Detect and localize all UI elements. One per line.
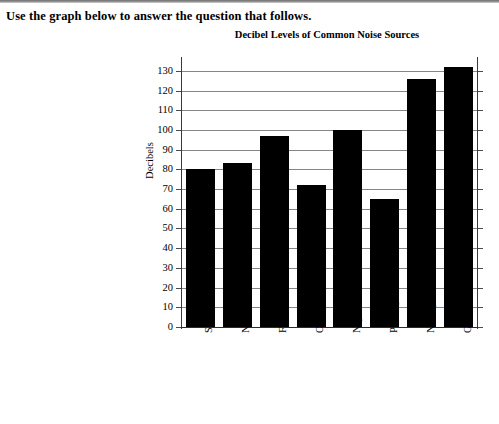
x-axis-category-label: Orchestra bbox=[315, 292, 325, 333]
y-axis-tick-mark-right bbox=[478, 91, 483, 92]
y-axis-tick-mark-right bbox=[478, 248, 483, 249]
question-prompt: Use the graph below to answer the questi… bbox=[6, 9, 311, 24]
chart-title: Decibel Levels of Common Noise Sources bbox=[188, 29, 466, 40]
x-axis-category-label: Noisy office bbox=[241, 281, 251, 333]
y-axis-tick-mark-right bbox=[478, 169, 483, 170]
top-divider-rule bbox=[0, 0, 499, 3]
y-axis-tick-label: 50 bbox=[143, 223, 173, 233]
y-axis-tick-mark-right bbox=[478, 150, 483, 151]
x-axis-category-label: Passing train bbox=[389, 279, 399, 333]
y-axis-tick-label: 120 bbox=[143, 86, 173, 96]
y-axis-tick-mark bbox=[176, 248, 181, 249]
y-axis-tick-mark bbox=[176, 150, 181, 151]
y-axis-tick-label: 40 bbox=[143, 243, 173, 253]
y-axis-tick-label: 110 bbox=[143, 105, 173, 115]
y-axis-tick-mark bbox=[176, 268, 181, 269]
y-axis-tick-mark-right bbox=[478, 288, 483, 289]
y-axis-tick-label: 130 bbox=[143, 66, 173, 76]
y-axis-tick-label: 90 bbox=[143, 145, 173, 155]
bar bbox=[186, 169, 215, 327]
x-axis-category-label: Nearby thunder bbox=[426, 267, 436, 333]
y-axis-tick-mark bbox=[176, 91, 181, 92]
y-axis-tick-mark bbox=[176, 228, 181, 229]
y-axis-tick-mark-right bbox=[478, 130, 483, 131]
y-axis-tick-label: 30 bbox=[143, 263, 173, 273]
y-axis-tick-mark-right bbox=[478, 189, 483, 190]
y-axis-tick-label: 20 bbox=[143, 283, 173, 293]
y-axis-tick-mark-right bbox=[478, 71, 483, 72]
y-axis-tick-label: 60 bbox=[143, 204, 173, 214]
y-axis-tick-mark-right bbox=[478, 110, 483, 111]
y-axis-tick-mark-right bbox=[478, 209, 483, 210]
y-axis-tick-mark-right bbox=[478, 307, 483, 308]
y-axis-tick-label: 70 bbox=[143, 184, 173, 194]
y-axis-tick-mark bbox=[176, 327, 181, 328]
y-axis-tick-mark bbox=[176, 110, 181, 111]
y-axis-tick-mark-right bbox=[478, 327, 483, 328]
y-axis-tick-mark bbox=[176, 189, 181, 190]
y-axis-tick-mark-right bbox=[478, 228, 483, 229]
y-axis-tick-mark bbox=[176, 307, 181, 308]
y-axis-tick-label: 0 bbox=[143, 322, 173, 332]
y-axis-tick-mark bbox=[176, 169, 181, 170]
y-axis-tick-mark bbox=[176, 288, 181, 289]
gridline bbox=[182, 71, 477, 72]
y-axis-tick-mark-right bbox=[478, 268, 483, 269]
y-axis-tick-mark bbox=[176, 130, 181, 131]
y-axis-tick-mark bbox=[176, 71, 181, 72]
x-axis-category-label: Factory bbox=[278, 301, 288, 333]
y-axis-tick-label: 10 bbox=[143, 302, 173, 312]
x-axis-category-label: Gunfire bbox=[463, 300, 473, 333]
bar bbox=[444, 67, 473, 327]
x-axis-category-label: Nightclub bbox=[352, 291, 362, 333]
y-axis-tick-label: 80 bbox=[143, 164, 173, 174]
y-axis-tick-mark bbox=[176, 209, 181, 210]
bar bbox=[260, 136, 289, 327]
y-axis-tick-label: 100 bbox=[143, 125, 173, 135]
x-axis-category-label: Shout bbox=[204, 308, 214, 333]
